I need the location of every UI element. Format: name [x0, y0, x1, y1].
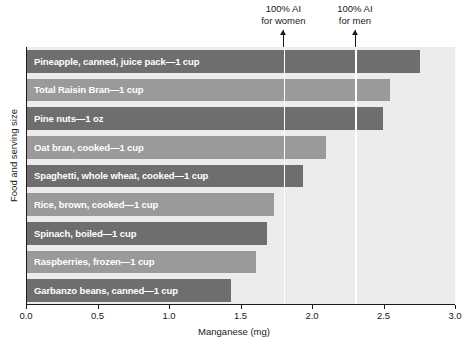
x-axis-tick: [455, 305, 456, 309]
x-axis-label: Manganese (mg): [0, 326, 468, 337]
bar-row: Oat bran, cooked—1 cup: [27, 136, 455, 159]
bar-label: Spaghetti, whole wheat, cooked—1 cup: [34, 165, 208, 188]
x-axis-tick-label: 3.0: [448, 310, 461, 321]
bar-row: Garbanzo beans, canned—1 cup: [27, 279, 455, 302]
plot-area: Pineapple, canned, juice pack—1 cupTotal…: [26, 47, 455, 305]
x-axis-tick-label: 2.0: [305, 310, 318, 321]
x-axis-tick-label: 1.5: [234, 310, 247, 321]
x-axis-tick: [312, 305, 313, 309]
x-axis-tick-label: 0.5: [91, 310, 104, 321]
bar-row: Pine nuts—1 oz: [27, 107, 455, 130]
x-axis-tick-label: 2.5: [377, 310, 390, 321]
x-axis-tick: [241, 305, 242, 309]
bar-row: Total Raisin Bran—1 cup: [27, 79, 455, 102]
bar-row: Pineapple, canned, juice pack—1 cup: [27, 50, 455, 73]
bar-label: Total Raisin Bran—1 cup: [34, 79, 143, 102]
bar-label: Rice, brown, cooked—1 cup: [34, 193, 158, 216]
x-axis-tick: [98, 305, 99, 309]
x-axis: 0.00.51.01.52.02.53.0: [26, 305, 455, 327]
bar-row: Spinach, boiled—1 cup: [27, 222, 455, 245]
annotation-line-1: 100% AI: [295, 3, 415, 15]
annotation-arrow-icon: [355, 30, 356, 47]
x-axis-tick: [384, 305, 385, 309]
bar-label: Raspberries, frozen—1 cup: [34, 251, 155, 274]
x-axis-tick: [26, 305, 27, 309]
annotation-label: 100% AIfor men: [295, 3, 415, 26]
annotation-line-2: for men: [295, 15, 415, 27]
bar-label: Spinach, boiled—1 cup: [34, 222, 136, 245]
bar-label: Pine nuts—1 oz: [34, 107, 103, 130]
bar-label: Oat bran, cooked—1 cup: [34, 136, 144, 159]
bar-row: Rice, brown, cooked—1 cup: [27, 193, 455, 216]
manganese-bar-chart: 100% AIfor women100% AIfor men Pineapple…: [0, 0, 468, 347]
annotation-arrow-icon: [283, 30, 284, 47]
bar-row: Raspberries, frozen—1 cup: [27, 251, 455, 274]
bar-row: Spaghetti, whole wheat, cooked—1 cup: [27, 165, 455, 188]
bar-label: Pineapple, canned, juice pack—1 cup: [34, 50, 199, 73]
reference-line: [284, 47, 286, 304]
x-axis-tick: [169, 305, 170, 309]
x-axis-tick-label: 0.0: [19, 310, 32, 321]
x-axis-tick-label: 1.0: [162, 310, 175, 321]
bar-label: Garbanzo beans, canned—1 cup: [34, 279, 178, 302]
reference-line: [355, 47, 357, 304]
y-axis-label: Food and serving size: [8, 81, 19, 231]
